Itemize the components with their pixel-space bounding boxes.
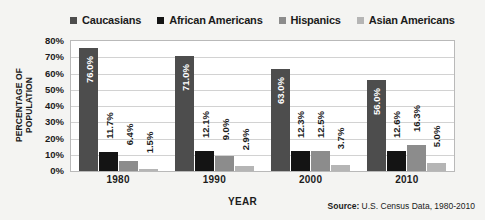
bar[interactable]: 9.0% bbox=[215, 156, 234, 171]
bar-value-label: 12.5% bbox=[315, 108, 326, 140]
bar[interactable]: 12.5% bbox=[311, 151, 330, 171]
bar-value-label: 9.0% bbox=[219, 114, 230, 146]
bar-value-label: 12.1% bbox=[199, 109, 210, 141]
bar-value-label: 5.0% bbox=[431, 120, 442, 152]
bar[interactable]: 63.0% bbox=[271, 69, 290, 171]
bar-value-label: 16.3% bbox=[411, 102, 422, 134]
x-tick-label: 2000 bbox=[263, 174, 359, 188]
y-tick-label: 0% bbox=[24, 165, 64, 176]
y-tick-label: 70% bbox=[24, 51, 64, 62]
bar[interactable]: 5.0% bbox=[427, 163, 446, 171]
y-tick-label: 40% bbox=[24, 100, 64, 111]
x-tick-label: 2010 bbox=[359, 174, 455, 188]
bar[interactable]: 11.7% bbox=[99, 152, 118, 171]
bar-groups: 76.0%11.7%6.4%1.5%71.0%12.1%9.0%2.9%63.0… bbox=[71, 41, 454, 171]
y-tick-label: 80% bbox=[24, 35, 64, 46]
bar-value-label: 2.9% bbox=[239, 124, 250, 156]
bar[interactable]: 76.0% bbox=[79, 48, 98, 172]
bar-value-label: 3.7% bbox=[335, 123, 346, 155]
x-tick-label: 1980 bbox=[70, 174, 166, 188]
y-tick-label: 60% bbox=[24, 67, 64, 78]
x-tick-label: 1990 bbox=[166, 174, 262, 188]
y-tick-label: 50% bbox=[24, 83, 64, 94]
source-label: Source: bbox=[328, 201, 360, 211]
bar[interactable]: 1.5% bbox=[139, 169, 158, 171]
bar-value-label: 6.4% bbox=[123, 118, 134, 150]
source-value: U.S. Census Data, 1980-2010 bbox=[359, 201, 475, 211]
bar[interactable]: 2.9% bbox=[235, 166, 254, 171]
bar-value-label: 76.0% bbox=[83, 53, 94, 85]
bar-group: 56.0%12.6%16.3%5.0% bbox=[358, 41, 454, 171]
bar[interactable]: 16.3% bbox=[407, 145, 426, 171]
bar[interactable]: 12.1% bbox=[195, 151, 214, 171]
bar[interactable]: 6.4% bbox=[119, 161, 138, 171]
bar-value-label: 12.3% bbox=[295, 109, 306, 141]
x-axis-ticks: 1980199020002010 bbox=[70, 174, 455, 188]
bar-group: 71.0%12.1%9.0%2.9% bbox=[167, 41, 263, 171]
bar-value-label: 56.0% bbox=[371, 86, 382, 118]
bar-value-label: 1.5% bbox=[143, 126, 154, 158]
bar[interactable]: 56.0% bbox=[367, 80, 386, 171]
y-tick-label: 20% bbox=[24, 132, 64, 143]
bar[interactable]: 12.6% bbox=[387, 151, 406, 171]
bar-group: 76.0%11.7%6.4%1.5% bbox=[71, 41, 167, 171]
source-note: Source: U.S. Census Data, 1980-2010 bbox=[328, 201, 475, 211]
bar-value-label: 11.7% bbox=[103, 110, 114, 142]
bar[interactable]: 71.0% bbox=[175, 56, 194, 171]
bar-value-label: 63.0% bbox=[275, 74, 286, 106]
bar-value-label: 12.6% bbox=[391, 108, 402, 140]
bar[interactable]: 12.3% bbox=[291, 151, 310, 171]
bar-value-label: 71.0% bbox=[179, 61, 190, 93]
plot-area: 76.0%11.7%6.4%1.5%71.0%12.1%9.0%2.9%63.0… bbox=[70, 40, 455, 172]
bar-group: 63.0%12.3%12.5%3.7% bbox=[263, 41, 359, 171]
bar[interactable]: 3.7% bbox=[331, 165, 350, 171]
y-tick-label: 30% bbox=[24, 116, 64, 127]
bar-chart: Caucasians African Americans Hispanics A… bbox=[0, 0, 485, 220]
y-tick-label: 10% bbox=[24, 148, 64, 159]
